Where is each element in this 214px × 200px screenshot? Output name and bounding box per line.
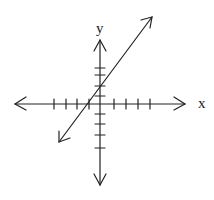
- y-axis-label: y: [96, 20, 104, 36]
- plotted-line: [59, 17, 152, 142]
- coordinate-plane: y x: [0, 0, 214, 200]
- x-axis-label: x: [198, 95, 206, 111]
